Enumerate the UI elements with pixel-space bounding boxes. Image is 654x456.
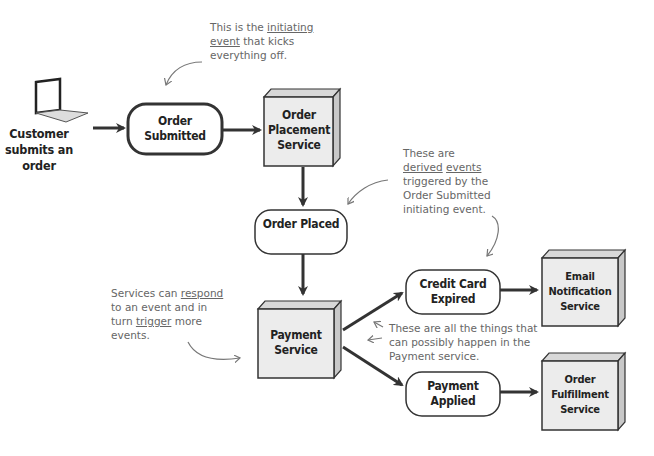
laptop-icon: [36, 79, 88, 122]
order-placed-label: Order Placed: [257, 217, 345, 232]
event-driven-diagram: Customer submits an order Order Submitte…: [0, 0, 654, 456]
customer-actor-label: Customer submits an order: [4, 126, 74, 174]
payment-outcomes-annotation: These are all the things that can possib…: [389, 321, 539, 363]
credit-card-expired-label: Credit Card Expired: [408, 277, 498, 307]
payment-service-label: Payment Service: [260, 328, 332, 358]
order-submitted-label: Order Submitted: [130, 114, 220, 144]
derived-events-annotation: These are derived events triggered by th…: [403, 146, 495, 216]
payment-applied-label: Payment Applied: [408, 379, 498, 409]
services-respond-annotation: Services can respond to an event and in …: [111, 286, 229, 342]
order-placement-service-label: Order Placement Service: [266, 108, 332, 153]
email-notification-service-label: Email Notification Service: [542, 269, 618, 314]
order-fulfillment-service-label: Order Fulfillment Service: [542, 372, 618, 417]
initiating-event-annotation: This is the initiating event that kicks …: [210, 20, 320, 62]
